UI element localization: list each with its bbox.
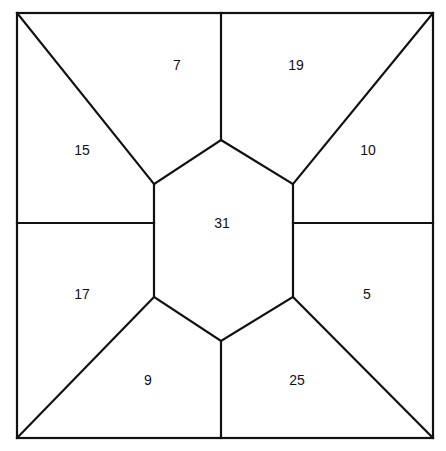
dissection-diagram: 7 19 15 10 31 17 5 9 25 — [0, 0, 446, 451]
central-hexagon — [154, 140, 293, 341]
region-label-top-right-upper: 19 — [288, 57, 304, 73]
diagonal-bottom-left — [17, 297, 154, 438]
region-label-bottom-left-lower: 9 — [144, 372, 152, 388]
diagonal-top-left — [17, 13, 154, 184]
diagonal-bottom-right — [293, 297, 433, 438]
region-label-left-lower: 17 — [74, 286, 90, 302]
region-label-center: 31 — [214, 215, 230, 231]
diagonal-top-right — [293, 13, 433, 184]
region-label-right-lower: 5 — [363, 286, 371, 302]
region-label-top-left-upper: 7 — [173, 57, 181, 73]
region-label-left-upper: 15 — [74, 142, 90, 158]
region-label-right-upper: 10 — [360, 142, 376, 158]
region-label-bottom-right-lower: 25 — [289, 372, 305, 388]
